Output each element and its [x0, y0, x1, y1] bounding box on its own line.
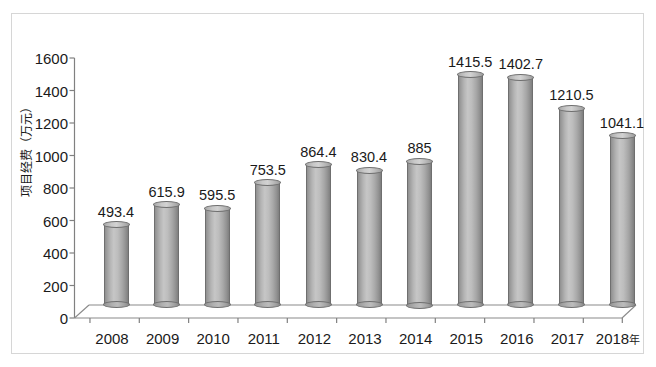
chart-container: 项目经费（万元） 02004006008001000120014001600 4… [0, 0, 656, 367]
bar-cylinder-body [559, 108, 584, 305]
bar-cylinder-top [356, 167, 383, 174]
bar-column[interactable] [357, 170, 382, 305]
bar-cylinder-body [610, 136, 635, 305]
bar-cylinder-top [204, 205, 231, 212]
bar-column[interactable] [255, 183, 280, 305]
bar-cylinder-body [104, 225, 129, 305]
x-axis-tick-label-text: 2015 [450, 330, 483, 347]
bar-value-label: 1402.7 [486, 57, 556, 72]
bar-column[interactable] [154, 205, 179, 305]
bar-column[interactable] [610, 136, 635, 305]
bar-cylinder-base [153, 301, 180, 308]
bar-cylinder-top [558, 105, 585, 112]
x-axis-tick-label-text: 2018 [596, 330, 629, 347]
x-axis-tick-label-text: 2016 [500, 330, 533, 347]
bar-value-label: 885 [385, 141, 455, 156]
x-axis-tick-label-text: 2008 [95, 330, 128, 347]
bar-column[interactable] [559, 108, 584, 305]
bar-cylinder-body [205, 208, 230, 305]
bar-cylinder-base [305, 301, 332, 308]
bar-cylinder-top [305, 161, 332, 168]
bar-column[interactable] [508, 77, 533, 305]
x-axis-tick-label-text: 2010 [197, 330, 230, 347]
bar-column[interactable] [458, 75, 483, 305]
bar-cylinder-body [407, 161, 432, 305]
bar-cylinder-base [558, 301, 585, 308]
bar-cylinder-body [255, 183, 280, 305]
bar-cylinder-base [103, 301, 130, 308]
bar-column[interactable] [407, 161, 432, 305]
bar-cylinder-top [507, 74, 534, 81]
bar-cylinder-body [508, 77, 533, 305]
bar-value-label: 1041.1 [587, 116, 656, 131]
x-axis-tick-label-text: 2014 [399, 330, 432, 347]
x-axis-unit-suffix: 年 [629, 334, 640, 346]
x-axis-tick-label-text: 2013 [348, 330, 381, 347]
bar-column[interactable] [205, 208, 230, 305]
bar-cylinder-body [154, 205, 179, 305]
x-axis-tick-label-text: 2011 [248, 330, 280, 347]
bar-value-label: 1210.5 [536, 88, 606, 103]
bar-cylinder-body [357, 170, 382, 305]
bar-cylinder-body [306, 165, 331, 305]
bar-cylinder-base [609, 301, 636, 308]
bar-cylinder-base [356, 301, 383, 308]
bar-column[interactable] [104, 225, 129, 305]
bars-layer: 493.42008615.92009595.52010753.52011864.… [0, 0, 656, 367]
bar-cylinder-base [457, 301, 484, 308]
x-axis-tick-label-text: 2012 [298, 330, 331, 347]
bar-cylinder-base [406, 302, 433, 309]
bar-cylinder-base [204, 301, 231, 308]
bar-value-label: 595.5 [182, 188, 252, 203]
bar-value-label: 753.5 [233, 163, 303, 178]
bar-cylinder-base [254, 301, 281, 308]
x-axis-tick-label-text: 2009 [146, 330, 179, 347]
x-axis-tick-label: 2018年 [583, 331, 653, 346]
bar-value-label: 493.4 [81, 205, 151, 220]
bar-column[interactable] [306, 165, 331, 305]
bar-cylinder-body [458, 75, 483, 305]
x-axis-tick-label-text: 2017 [551, 330, 584, 347]
bar-cylinder-base [507, 301, 534, 308]
bar-cylinder-top [406, 158, 433, 165]
